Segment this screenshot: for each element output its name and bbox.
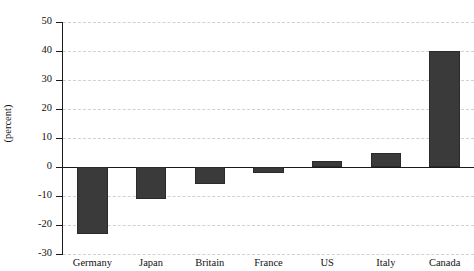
y-axis-tick-label: 0 — [26, 161, 52, 171]
gridline — [63, 51, 474, 52]
bar-france — [253, 167, 284, 173]
y-axis-tick-label: 50 — [26, 16, 52, 26]
y-axis-tick — [56, 196, 63, 197]
bar-chart-figure: (percent) 50403020100-10-20-30 GermanyJa… — [0, 0, 474, 271]
bar-britain — [195, 167, 226, 184]
y-axis-tick — [56, 138, 63, 139]
x-axis-label-britain: Britain — [180, 257, 239, 269]
y-axis-tick-label: -30 — [26, 248, 52, 258]
y-axis-tick — [56, 22, 63, 23]
gridline — [63, 109, 474, 110]
gridline — [63, 22, 474, 23]
y-axis-tick-label: 10 — [26, 132, 52, 142]
gridline — [63, 254, 474, 255]
y-axis-tick-label: 30 — [26, 74, 52, 84]
x-axis-label-canada: Canada — [415, 257, 474, 269]
gridline — [63, 225, 474, 226]
gridline — [63, 138, 474, 139]
x-axis-label-us: US — [298, 257, 357, 269]
y-axis-tick — [56, 80, 63, 81]
y-axis-tick — [56, 109, 63, 110]
bar-italy — [371, 153, 402, 168]
bar-us — [312, 161, 343, 167]
y-axis-tick-label: -20 — [26, 219, 52, 229]
gridline — [63, 196, 474, 197]
x-axis-label-japan: Japan — [122, 257, 181, 269]
x-axis-label-france: France — [239, 257, 298, 269]
bar-japan — [136, 167, 167, 199]
y-axis-title: (percent) — [2, 89, 13, 159]
chart-title-strip — [0, 0, 474, 2]
x-axis-label-italy: Italy — [357, 257, 416, 269]
y-axis-tick — [56, 167, 63, 168]
plot-area — [63, 22, 474, 254]
x-axis-label-germany: Germany — [63, 257, 122, 269]
y-axis-tick — [56, 254, 63, 255]
y-axis-tick-label: 20 — [26, 103, 52, 113]
y-axis-tick — [56, 225, 63, 226]
y-axis-tick-label: 40 — [26, 45, 52, 55]
y-axis-tick-label: -10 — [26, 190, 52, 200]
gridline — [63, 80, 474, 81]
bar-germany — [77, 167, 108, 234]
y-axis-tick — [56, 51, 63, 52]
bar-canada — [429, 51, 460, 167]
